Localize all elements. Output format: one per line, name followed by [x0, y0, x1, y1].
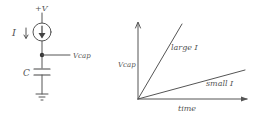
line-large-current	[138, 24, 182, 99]
line-large-current-label: large I	[171, 43, 199, 52]
capacitor-label: C	[23, 68, 30, 78]
capacitor-icon	[34, 69, 50, 75]
current-label: I	[11, 27, 17, 38]
vcap-output-label: Vcap	[73, 52, 91, 60]
vcap-vs-time-graph: large I small I Vcap time	[118, 22, 248, 113]
current-source-icon	[33, 23, 51, 41]
supply-voltage-label: +V	[35, 4, 49, 13]
y-axis-label: Vcap	[118, 61, 136, 69]
x-axis-label: time	[178, 104, 196, 113]
x-axis-arrow-icon	[241, 97, 248, 102]
current-direction-arrow-icon	[24, 28, 28, 39]
diagram-canvas: +V I Vcap C	[0, 0, 261, 117]
line-small-current-label: small I	[206, 79, 234, 88]
circuit-schematic: +V I Vcap C	[11, 4, 91, 100]
ground-icon	[36, 94, 48, 100]
